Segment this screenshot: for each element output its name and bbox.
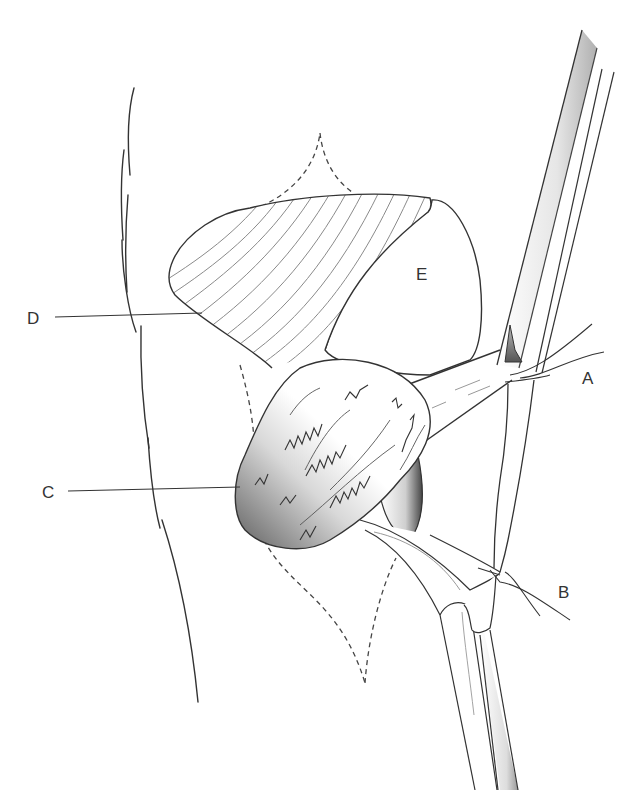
label-a: A — [582, 370, 593, 387]
body-outline — [121, 88, 198, 702]
label-b: B — [558, 584, 569, 601]
label-d: D — [27, 310, 39, 327]
strand-a-b — [494, 380, 534, 572]
leader-line-c — [68, 487, 240, 491]
anatomical-diagram — [0, 0, 633, 802]
leader-line-d — [55, 313, 202, 317]
forceps-legs — [440, 575, 540, 790]
leader-lines — [55, 313, 240, 491]
label-e: E — [416, 266, 427, 283]
label-c: C — [42, 484, 54, 501]
dashed-outline-lower — [264, 540, 396, 683]
instrument-rods — [497, 30, 614, 373]
